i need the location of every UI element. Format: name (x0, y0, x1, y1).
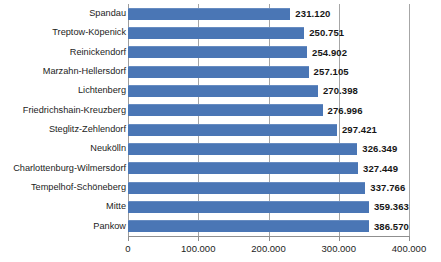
bar[interactable] (128, 27, 304, 39)
x-axis-tick (198, 237, 199, 241)
bar-row[interactable]: 276.996 (128, 101, 409, 120)
bar[interactable] (128, 220, 369, 232)
bar-value-label: 337.766 (370, 182, 405, 193)
bar-row[interactable]: 250.751 (128, 23, 409, 42)
plot-area: 231.120250.751254.902257.105270.398276.9… (128, 4, 409, 236)
bar-value-label: 386.570 (374, 221, 409, 232)
bar-row[interactable]: 359.363 (128, 197, 409, 216)
category-label: Reinickendorf (2, 43, 126, 62)
bar-value-label: 231.120 (295, 8, 330, 19)
bar-value-label: 276.996 (328, 105, 363, 116)
category-label: Marzahn-Hellersdorf (2, 62, 126, 81)
bar-row[interactable]: 270.398 (128, 81, 409, 100)
bar[interactable] (128, 182, 365, 194)
bar-chart: SpandauTreptow-KöpenickReinickendorfMarz… (0, 0, 441, 262)
x-axis-tick-label: 0 (125, 243, 130, 254)
bar[interactable] (128, 162, 358, 174)
x-axis-tick-label: 300.000 (322, 243, 356, 254)
bar-value-label: 297.421 (342, 124, 377, 135)
category-label: Lichtenberg (2, 81, 126, 100)
x-axis-tick (269, 237, 270, 241)
bar-row[interactable]: 337.766 (128, 178, 409, 197)
bar[interactable] (128, 104, 323, 116)
category-axis: SpandauTreptow-KöpenickReinickendorfMarz… (0, 4, 126, 236)
bar-value-label: 359.363 (374, 201, 409, 212)
bar-row[interactable]: 297.421 (128, 120, 409, 139)
bar-value-label: 327.449 (363, 163, 398, 174)
bar-value-label: 250.751 (309, 27, 344, 38)
category-label: Spandau (2, 4, 126, 23)
bar[interactable] (128, 46, 307, 58)
bar[interactable] (128, 85, 318, 97)
category-label: Neukölln (2, 139, 126, 158)
category-label: Friedrichshain-Kreuzberg (2, 101, 126, 120)
category-label: Pankow (2, 217, 126, 236)
bar-value-label: 254.902 (312, 47, 347, 58)
bar[interactable] (128, 124, 337, 136)
x-axis-tick-label: 100.000 (181, 243, 215, 254)
bar[interactable] (128, 143, 357, 155)
x-axis-tick (339, 237, 340, 241)
category-label: Mitte (2, 197, 126, 216)
x-axis-tick-label: 400.000 (392, 243, 426, 254)
bar[interactable] (128, 8, 290, 20)
x-axis-tick (128, 237, 129, 241)
category-label: Steglitz-Zehlendorf (2, 120, 126, 139)
bar[interactable] (128, 201, 369, 213)
bar[interactable] (128, 66, 309, 78)
gridline-400000 (409, 4, 410, 236)
bar-row[interactable]: 327.449 (128, 159, 409, 178)
bar-row[interactable]: 231.120 (128, 4, 409, 23)
x-axis-tick (409, 237, 410, 241)
bar-row[interactable]: 386.570 (128, 217, 409, 236)
bar-value-label: 270.398 (323, 85, 358, 96)
bar-row[interactable]: 326.349 (128, 139, 409, 158)
category-label: Treptow-Köpenick (2, 23, 126, 42)
bar-row[interactable]: 257.105 (128, 62, 409, 81)
category-label: Charlottenburg-Wilmersdorf (2, 159, 126, 178)
bar-row[interactable]: 254.902 (128, 43, 409, 62)
bar-value-label: 326.349 (362, 143, 397, 154)
x-axis-tick-label: 200.000 (251, 243, 285, 254)
bar-value-label: 257.105 (314, 66, 349, 77)
category-label: Tempelhof-Schöneberg (2, 178, 126, 197)
